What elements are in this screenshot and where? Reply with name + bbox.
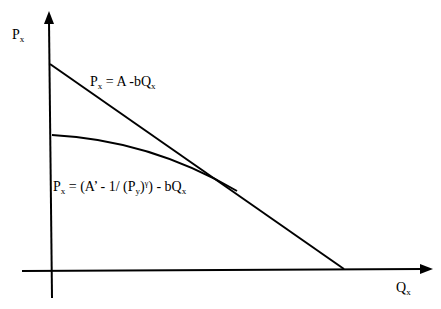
x-axis (22, 269, 422, 271)
linear-demand-line (50, 64, 344, 269)
demand-diagram (0, 0, 441, 309)
y-axis-label: Px (12, 27, 24, 47)
y-axis-arrow-icon (44, 11, 54, 24)
x-axis-label: Qx (396, 280, 411, 300)
curved-demand-label: Px = (A’ - 1/ (Py)γ) - bQx (53, 176, 186, 199)
linear-demand-label: Px = A -bQx (90, 74, 156, 94)
x-axis-arrow-icon (420, 264, 433, 274)
